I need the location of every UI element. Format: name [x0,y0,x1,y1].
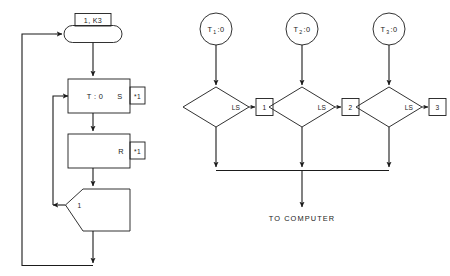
inner-feedback-loop [53,96,68,205]
branch-2-box-label: 2 [349,104,353,111]
branch-2-circle-label: T [294,25,299,34]
branch-2-circle-suffix: :0 [304,25,311,34]
branch-1-diamond-label: LS [232,104,241,111]
branch-3-circle-sub: 3 [386,29,389,35]
compare-block-label: 1 [78,202,82,209]
branch-1-group: T 1 :0 LS 1 [183,13,273,167]
timer-ref-label: *1 [134,93,141,100]
output-label: TO COMPUTER [269,214,336,223]
branch-3-box-label: 3 [436,104,440,111]
branch-3-circle-suffix: :0 [391,25,398,34]
branch-2-diamond-label: LS [318,104,327,111]
branch-1-circle-suffix: :0 [218,25,225,34]
branch-1-circle-label: T [208,25,213,34]
branch-3-group: T 3 :0 LS 3 [356,13,446,167]
branch-3-diamond-label: LS [405,104,414,111]
left-chart-group: 1, K3 T : 0 S *1 R *1 [22,14,145,266]
start-terminal-shape[interactable] [64,26,122,43]
branch-2-group: T 2 :0 LS 2 [269,13,359,167]
diagram-canvas: 1, K3 T : 0 S *1 R *1 [0,0,450,276]
timer-block-label: T : 0 [87,92,104,101]
reset-ref-label: *1 [134,148,141,155]
branch-3-circle-label: T [381,25,386,34]
branch-1-circle-sub: 1 [213,29,216,35]
branch-1-box-label: 1 [263,104,267,111]
timer-block-right-label: S [117,92,122,101]
compare-block-shape[interactable] [66,189,131,231]
flowchart-svg: 1, K3 T : 0 S *1 R *1 [0,0,450,276]
branch-2-circle-sub: 2 [299,29,302,35]
reset-block-right-label: R [118,147,124,156]
right-chart-group: T 1 :0 LS 1 T 2 :0 LS [183,13,446,223]
preset-tag-label: 1, K3 [84,16,102,25]
